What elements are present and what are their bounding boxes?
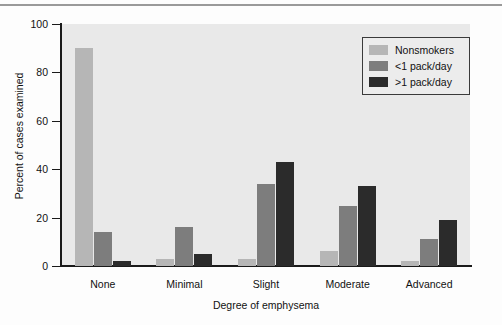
legend-item-nonsmokers: Nonsmokers bbox=[369, 43, 463, 57]
bar bbox=[420, 239, 438, 266]
x-axis-title: Degree of emphysema bbox=[62, 299, 470, 311]
y-axis-tick-label: 0 bbox=[2, 261, 48, 272]
y-axis-tick-label: 80 bbox=[2, 67, 48, 78]
bar bbox=[175, 227, 193, 266]
bar bbox=[401, 261, 419, 266]
legend-label-heavy-smokers: >1 pack/day bbox=[395, 77, 452, 88]
bar bbox=[358, 186, 376, 266]
bar bbox=[194, 254, 212, 266]
y-axis-tick bbox=[52, 121, 61, 122]
bar bbox=[75, 48, 93, 266]
y-axis-tick bbox=[52, 24, 61, 25]
y-axis-tick-label: 20 bbox=[2, 213, 48, 224]
y-axis-title: Percent of cases examined bbox=[13, 41, 25, 231]
legend-label-nonsmokers: Nonsmokers bbox=[395, 45, 454, 56]
y-axis-tick-label: 40 bbox=[2, 164, 48, 175]
bar bbox=[156, 259, 174, 266]
legend-item-light-smokers: <1 pack/day bbox=[369, 59, 463, 73]
legend-swatch-nonsmokers bbox=[369, 45, 388, 55]
x-axis-tick-label: None bbox=[58, 278, 148, 290]
bar bbox=[238, 259, 256, 266]
bar bbox=[339, 206, 357, 267]
bar bbox=[257, 184, 275, 266]
y-axis-tick bbox=[52, 169, 61, 170]
figure-canvas: 020406080100 Percent of cases examined D… bbox=[0, 0, 502, 325]
header-rule bbox=[0, 4, 502, 6]
bar bbox=[94, 232, 112, 266]
bar bbox=[113, 261, 131, 266]
legend-label-light-smokers: <1 pack/day bbox=[395, 61, 452, 72]
legend: Nonsmokers <1 pack/day >1 pack/day bbox=[362, 37, 470, 95]
bar bbox=[276, 162, 294, 266]
y-axis-tick bbox=[52, 266, 61, 267]
bar bbox=[320, 251, 338, 266]
bar bbox=[439, 220, 457, 266]
x-axis-tick-label: Slight bbox=[221, 278, 311, 290]
legend-item-heavy-smokers: >1 pack/day bbox=[369, 75, 463, 89]
y-axis-tick-label: 60 bbox=[2, 116, 48, 127]
x-axis-tick-label: Minimal bbox=[139, 278, 229, 290]
y-axis-tick bbox=[52, 72, 61, 73]
legend-swatch-heavy-smokers bbox=[369, 77, 388, 87]
x-axis-tick-label: Moderate bbox=[303, 278, 393, 290]
x-axis-tick-label: Advanced bbox=[384, 278, 474, 290]
legend-swatch-light-smokers bbox=[369, 61, 388, 71]
y-axis-tick-label: 100 bbox=[2, 19, 48, 30]
y-axis-tick bbox=[52, 218, 61, 219]
